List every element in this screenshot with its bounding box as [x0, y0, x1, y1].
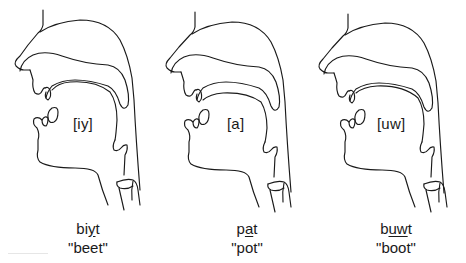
vocal-tract-outline-a — [155, 0, 315, 215]
english-word-gloss: "pot" — [197, 239, 297, 256]
vocal-tract-outline-uw — [305, 0, 465, 215]
transcription-underlined-part: y — [88, 220, 96, 237]
transcription-underlined-part: uw — [388, 220, 407, 237]
vowel-label: [a] — [227, 115, 244, 132]
english-word-gloss: "beet" — [38, 239, 138, 256]
transcription-part: t — [96, 220, 100, 237]
phonemic-transcription: buwt — [346, 220, 446, 237]
english-word-gloss: "boot" — [346, 239, 446, 256]
phonemic-transcription: biyt — [38, 220, 138, 237]
phonemic-transcription: pat — [197, 220, 297, 237]
vowel-label: [uw] — [377, 115, 405, 132]
transcription-part: p — [237, 220, 245, 237]
vocal-tract-outline-iy — [0, 0, 160, 215]
transcription-underlined-part: a — [245, 220, 253, 237]
scan-artifact-rule — [8, 253, 48, 254]
transcription-part: t — [253, 220, 257, 237]
vocal-tract-figure-uw: [uw] buwt "boot" — [305, 0, 465, 263]
vocal-tract-figure-a: [a] pat "pot" — [155, 0, 315, 263]
transcription-part: t — [408, 220, 412, 237]
transcription-part: bi — [76, 220, 88, 237]
vocal-tract-figure-iy: [iy] biyt "beet" — [0, 0, 160, 263]
vowel-label: [iy] — [73, 115, 93, 132]
